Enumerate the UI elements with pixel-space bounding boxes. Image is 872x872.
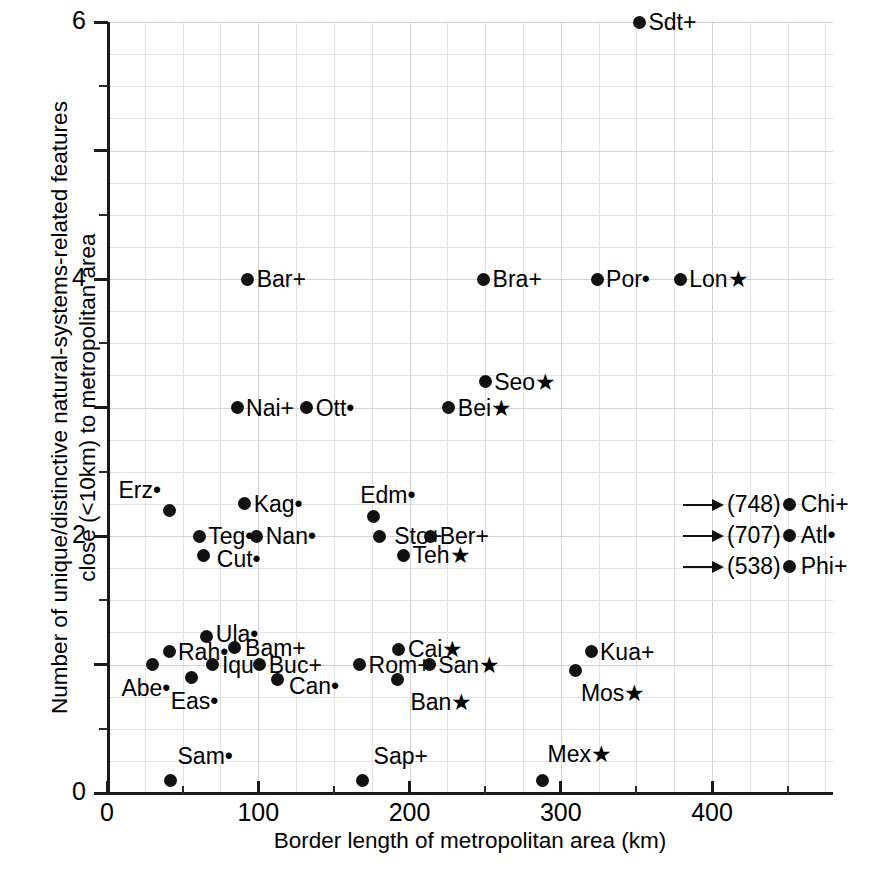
x-axis-tick-label: 300 [521, 798, 601, 827]
data-point-label: Teh★ [412, 542, 470, 569]
x-axis-minor-tick [333, 786, 335, 795]
data-point-bar [241, 273, 254, 286]
grid-line-horizontal [107, 151, 833, 152]
grid-line-horizontal [107, 86, 833, 87]
offscale-point-marker [783, 560, 796, 573]
data-point-label: Kag• [254, 490, 303, 517]
data-point-erz [163, 504, 176, 517]
x-axis-tick [711, 781, 714, 795]
data-point-label: Mos★ [581, 679, 645, 706]
x-axis-tick-label: 100 [218, 798, 298, 827]
data-point-label: Bra+ [493, 266, 542, 293]
offscale-point-label: Chi+ [801, 491, 849, 518]
offscale-legend-row: (748)Chi+ [683, 489, 872, 520]
grid-line-horizontal [107, 54, 833, 55]
data-point-label: Abe• [121, 674, 170, 701]
data-point-sto [373, 530, 386, 543]
data-point-label: Kua+ [600, 638, 654, 665]
data-point-label: Bar+ [257, 266, 306, 293]
data-point-label: Sap+ [374, 743, 428, 770]
grid-line-horizontal [107, 22, 833, 23]
data-point-cai [392, 643, 405, 656]
arrow-right-icon [683, 498, 725, 512]
x-axis-minor-tick [635, 786, 637, 795]
grid-line-horizontal [107, 311, 833, 312]
data-point-sap [356, 774, 369, 787]
data-point-abe [146, 658, 159, 671]
offscale-legend-row: (707)Atl• [683, 520, 872, 551]
data-point-label: Por• [606, 266, 650, 293]
data-point-nan [250, 530, 263, 543]
x-axis-tick-label: 200 [370, 798, 450, 827]
grid-line-horizontal [107, 215, 833, 216]
data-point-label: Lon★ [689, 266, 748, 293]
x-axis-tick [257, 781, 260, 795]
data-point-label: Bei★ [458, 394, 512, 421]
y-axis-title-line2: close (<10km) to metropolitan area [74, 22, 102, 793]
data-point-label: Sam• [178, 743, 233, 770]
data-point-label: Sdt+ [648, 9, 696, 36]
x-axis-minor-tick [484, 786, 486, 795]
grid-line-horizontal [107, 440, 833, 441]
grid-line-horizontal [107, 247, 833, 248]
data-point-edm [367, 510, 380, 523]
x-axis-minor-tick [787, 786, 789, 795]
x-axis-tick-label: 400 [672, 798, 752, 827]
grid-line-horizontal [107, 118, 833, 119]
data-point-label: Edm• [360, 481, 415, 508]
arrow-right-icon [683, 560, 725, 574]
data-point-seo [479, 375, 492, 388]
data-point-label: Ban★ [410, 688, 472, 715]
arrow-right-icon [683, 529, 725, 543]
y-axis-title: Number of unique/distinctive natural-sys… [46, 22, 102, 793]
data-point-label: Nan• [266, 523, 316, 550]
grid-line-horizontal [107, 729, 833, 730]
data-point-rom [353, 658, 366, 671]
offscale-legend-row: (538)Phi+ [683, 551, 872, 582]
data-point-lon [674, 273, 687, 286]
grid-line-horizontal [107, 343, 833, 344]
data-point-label: Eas• [171, 688, 219, 715]
x-axis-line [107, 792, 833, 795]
data-point-label: Cai★ [408, 636, 464, 663]
data-point-eas [185, 671, 198, 684]
data-point-teg [193, 530, 206, 543]
data-point-label: Ott• [316, 394, 355, 421]
offscale-point-marker [783, 529, 796, 542]
grid-line-horizontal [107, 375, 833, 376]
offscale-point-marker [783, 498, 796, 511]
offscale-point-label: Atl• [801, 522, 836, 549]
offscale-x-value: (748) [727, 491, 781, 518]
x-axis-tick [559, 781, 562, 795]
offscale-point-label: Phi+ [801, 553, 848, 580]
data-point-bra [477, 273, 490, 286]
x-axis-title: Border length of metropolitan area (km) [107, 828, 833, 854]
data-point-cut [197, 549, 210, 562]
grid-line-horizontal [107, 600, 833, 601]
data-point-mex [536, 774, 549, 787]
data-point-por [591, 273, 604, 286]
x-axis-tick-label: 0 [67, 798, 147, 827]
x-axis-minor-tick [182, 786, 184, 795]
data-point-label: Mex★ [548, 741, 612, 768]
data-point-rah [163, 645, 176, 658]
data-point-ber [424, 530, 437, 543]
y-axis-title-line1: Number of unique/distinctive natural-sys… [46, 22, 74, 793]
x-axis-tick [106, 781, 109, 795]
data-point-label: Cut• [217, 546, 261, 573]
data-point-kua [585, 645, 598, 658]
data-point-nai [231, 401, 244, 414]
data-point-label: Can• [289, 672, 339, 699]
data-point-sam [164, 774, 177, 787]
scatter-plot-figure: 02460100200300400 Sdt+Bar+Bra+Por•Lon★Se… [0, 0, 872, 872]
offscale-x-value: (707) [727, 522, 781, 549]
data-point-teh [397, 549, 410, 562]
offscale-legend: (748)Chi+(707)Atl•(538)Phi+ [683, 489, 872, 582]
data-point-label: Seo★ [494, 368, 556, 395]
offscale-x-value: (538) [727, 553, 781, 580]
data-point-sdt [633, 16, 646, 29]
grid-line-horizontal [107, 183, 833, 184]
data-point-label: Rah• [178, 638, 228, 665]
data-point-label: Nai+ [246, 394, 294, 421]
grid-line-horizontal [107, 472, 833, 473]
